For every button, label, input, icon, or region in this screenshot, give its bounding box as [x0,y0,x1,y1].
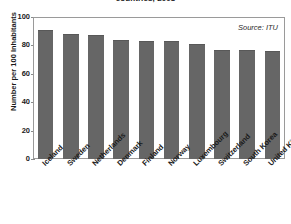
bar [38,30,54,159]
chart-container: countries, 2008 Number per 100 Inhabitan… [0,0,291,224]
bar [164,41,180,159]
x-axis-labels: IcelandSwedenNetherlandsDenmarkFinlandNo… [33,160,285,224]
y-tick-label: 60 [6,70,30,78]
bar [88,35,104,159]
y-tick-label: 100 [6,13,30,21]
bar [189,44,205,159]
y-tick-label: 40 [6,98,30,106]
y-tick-label: 0 [6,155,30,163]
y-tick-label: 20 [6,127,30,135]
y-tick-label: 80 [6,41,30,49]
chart-title: countries, 2008 [0,0,291,3]
bar [63,34,79,159]
